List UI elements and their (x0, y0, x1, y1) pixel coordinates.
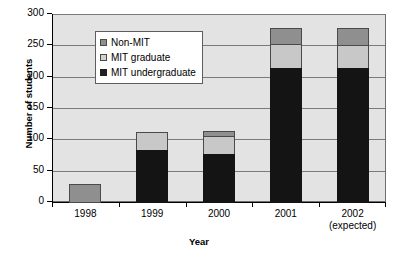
legend-label: Non-MIT (111, 37, 150, 48)
y-tick-label: 0 (0, 195, 44, 206)
y-tick-label: 50 (0, 164, 44, 175)
legend-label: MIT graduate (111, 52, 170, 63)
gridline (53, 14, 385, 15)
x-tick-mark (319, 202, 320, 207)
legend-item-mit-graduate: MIT graduate (100, 50, 196, 65)
x-tick-mark (252, 202, 253, 207)
bar-segment-mit-graduate (337, 45, 369, 69)
y-tick-label: 100 (0, 132, 44, 143)
y-tick-label: 300 (0, 7, 44, 18)
x-axis-title: Year (0, 236, 398, 247)
bar-2001 (270, 28, 302, 202)
y-tick-label: 200 (0, 70, 44, 81)
legend-label: MIT undergraduate (111, 67, 196, 78)
legend-item-mit-undergraduate: MIT undergraduate (100, 65, 196, 80)
chart-figure: Number of students 050100150200250300 19… (0, 0, 398, 258)
bar-segment-mit-graduate (203, 136, 235, 155)
bar-1999 (136, 132, 168, 202)
x-tick-label-year: 2002 (308, 208, 398, 220)
legend-swatch-icon (100, 69, 107, 76)
bar-2002 (337, 28, 369, 202)
x-tick-mark (52, 202, 53, 207)
bar-segment-mit-graduate (270, 44, 302, 69)
gridline (53, 108, 385, 109)
x-tick-mark (119, 202, 120, 207)
bar-segment-mit-undergraduate (337, 68, 369, 203)
bar-segment-mit-undergraduate (203, 154, 235, 203)
bar-segment-mit-graduate (136, 132, 168, 151)
y-tick-label: 250 (0, 38, 44, 49)
x-tick-mark (186, 202, 187, 207)
legend-swatch-icon (100, 39, 107, 46)
bar-segment-mit-undergraduate (136, 150, 168, 203)
legend-swatch-icon (100, 54, 107, 61)
bar-segment-non-mit (69, 184, 101, 203)
bar-1998 (69, 184, 101, 202)
bar-2000 (203, 131, 235, 202)
x-tick-mark (385, 202, 386, 207)
bar-segment-non-mit (270, 28, 302, 46)
bar-segment-mit-undergraduate (270, 68, 302, 203)
chart-legend: Non-MITMIT graduateMIT undergraduate (95, 31, 203, 84)
legend-item-non-mit: Non-MIT (100, 35, 196, 50)
y-axis-line (52, 14, 53, 202)
x-tick-label: 2002(expected) (308, 208, 398, 231)
y-tick-label: 150 (0, 101, 44, 112)
bar-segment-non-mit (337, 28, 369, 47)
x-tick-label-note: (expected) (308, 220, 398, 232)
